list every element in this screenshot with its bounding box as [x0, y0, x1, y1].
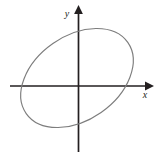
figure-container: y x — [0, 0, 165, 158]
figure-background — [0, 0, 165, 158]
y-axis-label: y — [64, 8, 70, 19]
x-axis-label: x — [142, 89, 148, 100]
coordinate-plane-figure: y x — [0, 0, 165, 158]
